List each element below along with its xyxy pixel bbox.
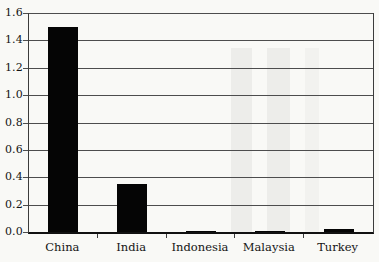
gridline — [29, 13, 373, 14]
y-tick — [23, 13, 28, 14]
y-tick-label: 1.6 — [0, 6, 23, 20]
y-tick-label: 0.2 — [0, 198, 23, 212]
y-tick — [23, 150, 28, 151]
bar-india — [117, 184, 147, 232]
x-axis-labels: ChinaIndiaIndonesiaMalaysiaTurkey — [28, 239, 372, 257]
y-tick-label: 0.0 — [0, 225, 23, 239]
plot-area — [28, 13, 374, 234]
gridline — [29, 150, 373, 151]
y-tick-label: 0.6 — [0, 143, 23, 157]
bar-malaysia — [255, 231, 285, 232]
x-category-label: Malaysia — [234, 239, 303, 255]
gridline — [29, 123, 373, 124]
y-tick — [23, 123, 28, 124]
bar-indonesia — [186, 231, 216, 232]
bar-turkey — [324, 229, 354, 232]
bar-china — [48, 27, 78, 232]
x-tick — [303, 234, 304, 238]
x-category-label: India — [97, 239, 166, 255]
y-tick-label: 0.8 — [0, 116, 23, 130]
gridline — [29, 177, 373, 178]
y-axis-labels: 0.00.20.40.60.81.01.21.41.6 — [0, 0, 24, 262]
y-tick — [23, 95, 28, 96]
x-category-label: China — [28, 239, 97, 255]
x-tick — [234, 234, 235, 238]
x-tick — [166, 234, 167, 238]
x-tick — [97, 234, 98, 238]
bar-chart-figure: 0.00.20.40.60.81.01.21.41.6 ChinaIndiaIn… — [0, 0, 379, 262]
y-tick-label: 1.4 — [0, 33, 23, 47]
gridline — [29, 68, 373, 69]
y-tick — [23, 177, 28, 178]
gridline — [29, 95, 373, 96]
y-tick-label: 1.2 — [0, 61, 23, 75]
x-category-label: Turkey — [303, 239, 372, 255]
y-tick — [23, 40, 28, 41]
y-tick — [23, 205, 28, 206]
x-category-label: Indonesia — [166, 239, 235, 255]
y-tick-label: 1.0 — [0, 88, 23, 102]
gridline — [29, 40, 373, 41]
gridline — [29, 205, 373, 206]
y-tick — [23, 232, 28, 233]
y-tick — [23, 68, 28, 69]
y-tick-label: 0.4 — [0, 170, 23, 184]
